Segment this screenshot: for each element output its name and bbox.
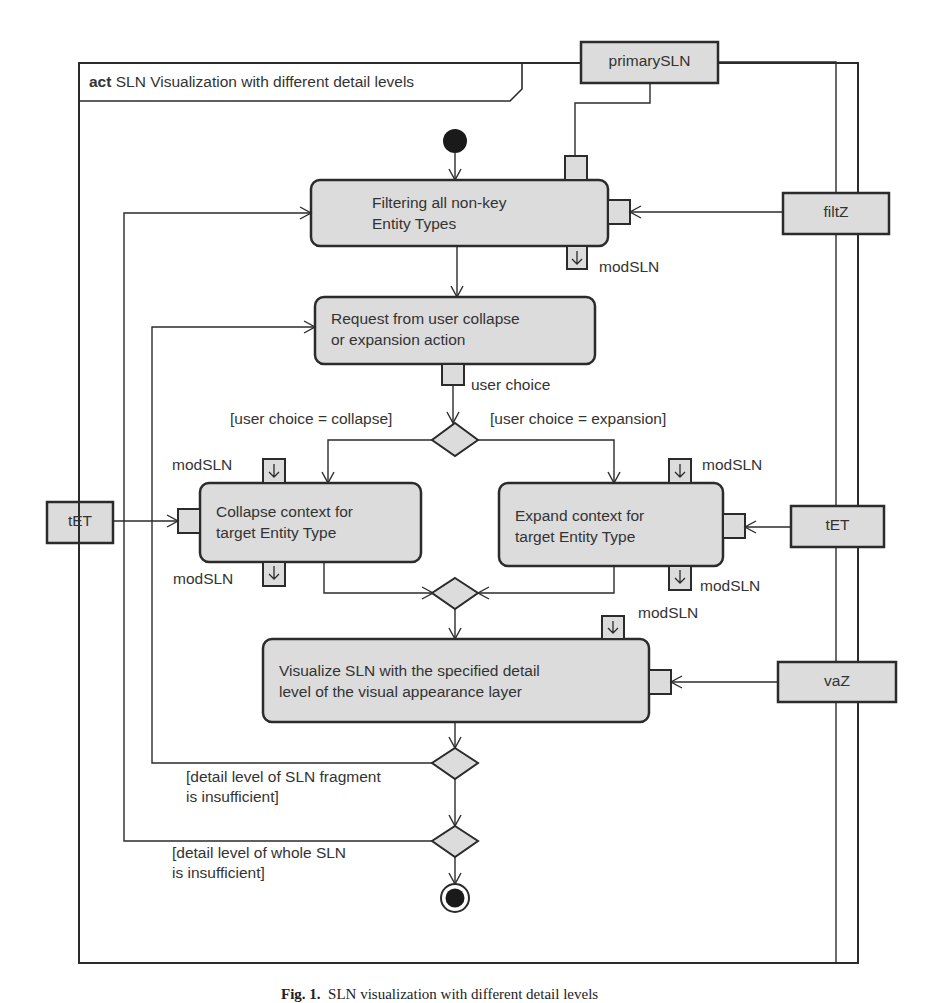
action-label-filtering: Filtering all non-key Entity Types xyxy=(372,192,506,234)
flow-primarysln-right xyxy=(718,62,836,196)
merge-node xyxy=(432,578,478,609)
frame-keyword: act xyxy=(89,73,111,90)
pin-filtering-primary-in xyxy=(565,156,587,180)
frame-title-text: SLN Visualization with different detail … xyxy=(116,73,414,90)
caption-label: Fig. 1. xyxy=(281,986,321,1002)
guard-fragment-insufficient: [detail level of SLN fragment is insuffi… xyxy=(186,767,381,807)
activity-diagram-canvas xyxy=(0,0,938,1003)
action-label-visualize: Visualize SLN with the specified detail … xyxy=(279,660,540,702)
object-label-tet-left: tET xyxy=(47,512,113,530)
pin-collapse-tet-in xyxy=(178,509,200,533)
final-node-center xyxy=(446,889,465,908)
figure-caption: Fig. 1. SLN visualization with different… xyxy=(281,986,598,1003)
pin-label-collapse-out: modSLN xyxy=(173,570,233,588)
object-label-primarysln: primarySLN xyxy=(581,52,718,70)
action-label-collapse: Collapse context for target Entity Type xyxy=(216,501,353,543)
object-label-filtz: filtZ xyxy=(783,203,889,221)
flow-primarysln-to-filtering xyxy=(575,83,650,166)
pin-label-expand-in: modSLN xyxy=(702,456,762,474)
guard-whole-insufficient: [detail level of whole SLN is insufficie… xyxy=(172,843,346,883)
guard-expansion: [user choice = expansion] xyxy=(490,409,666,429)
pin-visualize-vaz-in xyxy=(649,670,671,694)
flow-expand-to-merge xyxy=(478,566,614,593)
caption-text: SLN visualization with different detail … xyxy=(328,986,598,1002)
pin-label-expand-out: modSLN xyxy=(700,577,760,595)
decision-node-user-choice xyxy=(432,423,478,456)
object-label-tet-right: tET xyxy=(791,516,884,534)
pin-expand-tet-in xyxy=(723,514,745,538)
flow-decision-to-collapse xyxy=(328,440,432,483)
action-label-expand: Expand context for target Entity Type xyxy=(515,505,644,547)
decision-node-whole xyxy=(432,826,478,857)
pin-request-userchoice-out xyxy=(442,364,464,385)
pin-label-visualize-in: modSLN xyxy=(638,604,698,622)
flow-collapse-to-merge xyxy=(324,562,433,593)
object-label-vaz: vaZ xyxy=(778,672,896,690)
pin-label-request-out: user choice xyxy=(471,376,550,394)
frame-title: act SLN Visualization with different det… xyxy=(89,73,414,91)
pin-label-collapse-in: modSLN xyxy=(172,456,232,474)
pin-filtering-filtz-in xyxy=(608,200,630,224)
guard-collapse: [user choice = collapse] xyxy=(230,409,392,429)
action-label-request: Request from user collapse or expansion … xyxy=(331,308,520,350)
pin-label-filtering-out: modSLN xyxy=(599,258,659,276)
decision-node-fragment xyxy=(432,748,478,779)
initial-node xyxy=(443,129,467,153)
flow-decision-to-expand xyxy=(478,440,614,483)
